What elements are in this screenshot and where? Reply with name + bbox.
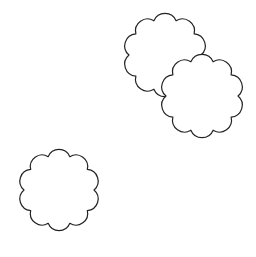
diagram-canvas xyxy=(0,0,256,257)
shapes-group xyxy=(20,13,242,230)
scalloped-circle-shape-3 xyxy=(20,149,98,230)
scalloped-circle-shape-2 xyxy=(162,54,243,137)
